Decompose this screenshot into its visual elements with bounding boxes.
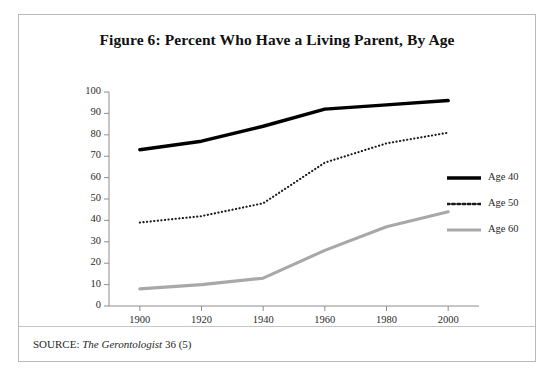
legend-swatch-age-40 — [447, 170, 481, 182]
x-axis-tick-1980: 1980 — [367, 314, 407, 325]
chart-plot-area: 0102030405060708090100190019201940196019… — [89, 78, 489, 326]
source-note: SOURCE: The Gerontologist 36 (5) — [33, 338, 192, 350]
source-journal: The Gerontologist — [82, 338, 162, 350]
y-axis-tick-0: 0 — [75, 299, 101, 310]
chart-legend: Age 40 Age 50 Age 60 — [447, 163, 537, 241]
y-axis-tick-20: 20 — [75, 256, 101, 267]
y-axis-tick-60: 60 — [75, 171, 101, 182]
legend-label-age-40: Age 40 — [488, 171, 519, 182]
chart-svg — [89, 78, 489, 326]
y-axis-tick-30: 30 — [75, 235, 101, 246]
y-axis-tick-10: 10 — [75, 278, 101, 289]
y-axis-tick-50: 50 — [75, 192, 101, 203]
y-axis-tick-40: 40 — [75, 213, 101, 224]
figure-frame: Figure 6: Percent Who Have a Living Pare… — [18, 14, 536, 362]
y-axis-tick-70: 70 — [75, 149, 101, 160]
legend-item-age-40: Age 40 — [447, 163, 537, 189]
source-prefix: SOURCE: — [33, 338, 79, 350]
x-axis-tick-1960: 1960 — [305, 314, 345, 325]
series-line-age-50 — [140, 133, 448, 223]
source-volume: 36 (5) — [165, 338, 192, 350]
y-axis-tick-90: 90 — [75, 106, 101, 117]
legend-item-age-60: Age 60 — [447, 215, 537, 241]
legend-item-age-50: Age 50 — [447, 189, 537, 215]
series-line-age-60 — [140, 212, 448, 289]
x-axis-tick-1900: 1900 — [120, 314, 160, 325]
y-axis-tick-80: 80 — [75, 128, 101, 139]
legend-swatch-age-50 — [447, 196, 481, 208]
y-axis-tick-100: 100 — [75, 85, 101, 96]
legend-swatch-age-60 — [447, 222, 481, 234]
legend-label-age-50: Age 50 — [488, 197, 519, 208]
x-axis-tick-1940: 1940 — [243, 314, 283, 325]
x-axis-tick-1920: 1920 — [182, 314, 222, 325]
source-divider — [19, 326, 535, 327]
x-axis-tick-2000: 2000 — [428, 314, 468, 325]
series-line-age-40 — [140, 101, 448, 150]
legend-label-age-60: Age 60 — [488, 223, 519, 234]
figure-title: Figure 6: Percent Who Have a Living Pare… — [19, 31, 535, 49]
